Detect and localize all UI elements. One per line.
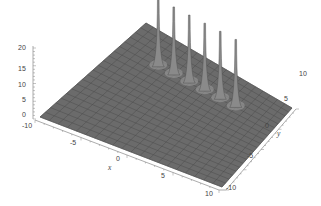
- x-tick-10: 10: [205, 190, 213, 197]
- y-tick--10: -10: [226, 184, 236, 191]
- x-tick-0: 0: [116, 155, 120, 162]
- x-tick--10: -10: [22, 122, 32, 129]
- x-tick--5: -5: [70, 139, 76, 146]
- surface-plot: 20 15 10 5 0 -10 -5 0 5 10 x -10 -5 0 5 …: [0, 0, 321, 206]
- y-tick-10: 10: [299, 70, 307, 77]
- surface: [40, 23, 292, 187]
- y-tick-0: 0: [265, 122, 269, 129]
- z-tick-10: 10: [18, 81, 26, 88]
- z-tick-15: 15: [18, 65, 26, 72]
- y-axis-label: y: [276, 129, 281, 138]
- z-tick-20: 20: [18, 44, 26, 51]
- y-tick--5: -5: [247, 152, 253, 159]
- z-tick-5: 5: [22, 96, 26, 103]
- z-tick-0: 0: [22, 111, 26, 118]
- x-axis-label: x: [107, 163, 112, 172]
- y-tick-5: 5: [284, 95, 288, 102]
- x-tick-5: 5: [161, 172, 165, 179]
